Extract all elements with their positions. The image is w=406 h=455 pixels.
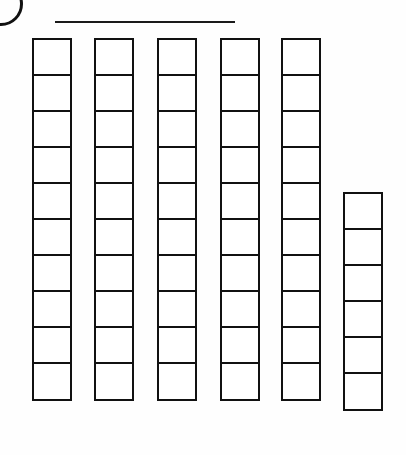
unit-square-cell[interactable] — [157, 290, 197, 329]
unit-square-cell[interactable] — [157, 110, 197, 149]
unit-square-cell[interactable] — [94, 182, 134, 221]
unit-square-column — [94, 38, 134, 424]
unit-square-cell[interactable] — [157, 146, 197, 185]
unit-square-cell[interactable] — [157, 182, 197, 221]
unit-square-cell[interactable] — [32, 290, 72, 329]
unit-square-column — [281, 38, 321, 424]
unit-square-cell[interactable] — [32, 218, 72, 257]
unit-square-cell[interactable] — [281, 74, 321, 113]
unit-square-cell[interactable] — [220, 362, 260, 401]
unit-square-cell[interactable] — [220, 182, 260, 221]
unit-square-column — [220, 38, 260, 424]
unit-square-cell[interactable] — [281, 110, 321, 149]
unit-square-cell[interactable] — [220, 218, 260, 257]
unit-square-cell[interactable] — [220, 254, 260, 293]
unit-square-cell[interactable] — [343, 336, 383, 375]
unit-square-cell[interactable] — [281, 38, 321, 77]
unit-square-cell[interactable] — [94, 74, 134, 113]
unit-square-cell[interactable] — [94, 254, 134, 293]
unit-square-column — [157, 38, 197, 424]
unit-square-cell[interactable] — [220, 110, 260, 149]
unit-square-cell[interactable] — [94, 290, 134, 329]
unit-square-cell[interactable] — [32, 146, 72, 185]
unit-square-column — [32, 38, 72, 424]
unit-square-cell[interactable] — [343, 228, 383, 267]
unit-square-cell[interactable] — [94, 362, 134, 401]
unit-square-cell[interactable] — [343, 192, 383, 231]
unit-square-cell[interactable] — [343, 264, 383, 303]
unit-square-cell[interactable] — [281, 254, 321, 293]
answer-blank-line[interactable] — [55, 21, 235, 23]
unit-square-cell[interactable] — [343, 372, 383, 411]
unit-square-cell[interactable] — [157, 254, 197, 293]
unit-square-cell[interactable] — [157, 38, 197, 77]
unit-square-cell[interactable] — [157, 74, 197, 113]
unit-square-cell[interactable] — [157, 218, 197, 257]
circle-outline-partial-icon — [0, 0, 23, 26]
worksheet-canvas — [0, 0, 406, 455]
unit-square-column — [343, 192, 383, 424]
unit-square-cell[interactable] — [94, 326, 134, 365]
unit-square-cell[interactable] — [32, 326, 72, 365]
unit-square-cell[interactable] — [281, 290, 321, 329]
unit-square-cell[interactable] — [220, 38, 260, 77]
unit-square-cell[interactable] — [32, 110, 72, 149]
unit-square-cell[interactable] — [32, 74, 72, 113]
unit-square-cell[interactable] — [32, 254, 72, 293]
unit-square-cell[interactable] — [94, 146, 134, 185]
unit-square-cell[interactable] — [281, 182, 321, 221]
unit-square-cell[interactable] — [157, 362, 197, 401]
unit-square-cell[interactable] — [281, 218, 321, 257]
unit-square-cell[interactable] — [94, 110, 134, 149]
unit-square-cell[interactable] — [32, 182, 72, 221]
unit-square-cell[interactable] — [220, 74, 260, 113]
unit-square-cell[interactable] — [32, 362, 72, 401]
unit-square-cell[interactable] — [220, 290, 260, 329]
unit-square-cell[interactable] — [32, 38, 72, 77]
unit-square-cell[interactable] — [281, 326, 321, 365]
unit-square-cell[interactable] — [94, 218, 134, 257]
unit-square-cell[interactable] — [157, 326, 197, 365]
unit-square-cell[interactable] — [220, 326, 260, 365]
unit-square-cell[interactable] — [281, 146, 321, 185]
unit-square-cell[interactable] — [343, 300, 383, 339]
unit-square-cell[interactable] — [220, 146, 260, 185]
unit-square-cell[interactable] — [281, 362, 321, 401]
unit-square-cell[interactable] — [94, 38, 134, 77]
